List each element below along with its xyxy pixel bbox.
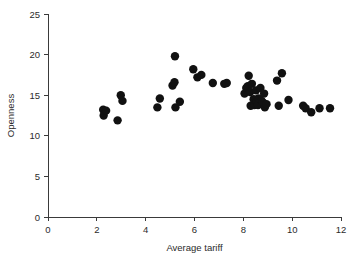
y-tick-label: 5 [35,171,40,182]
data-point [284,96,292,104]
x-tick-label: 0 [45,224,50,235]
data-point [197,71,205,79]
x-tick-label: 2 [94,224,99,235]
x-axis-ticks: 024681012 [45,217,346,235]
data-point [209,79,217,87]
y-axis-ticks: 0510152025 [29,9,48,223]
y-tick-label: 10 [29,130,40,141]
data-point [245,72,253,80]
y-axis-title: Openness [5,94,16,138]
axes-group [48,14,341,217]
data-points-layer [99,52,334,125]
data-point [102,106,110,114]
data-point [189,65,197,73]
y-tick-label: 15 [29,90,40,101]
data-point [176,97,184,105]
x-tick-label: 4 [143,224,148,235]
data-point [171,52,179,60]
data-point [170,78,178,86]
data-point [326,104,334,112]
data-point [223,79,231,87]
x-tick-label: 10 [287,224,298,235]
data-point [156,94,164,102]
x-tick-label: 8 [241,224,246,235]
scatter-plot-figure: 024681012 0510152025 Average tariff Open… [0,0,354,269]
data-point [262,100,270,108]
data-point [278,69,286,77]
data-point [273,76,281,84]
y-tick-label: 25 [29,9,40,20]
x-tick-label: 6 [192,224,197,235]
data-point [113,116,121,124]
data-point [275,102,283,110]
x-axis-title: Average tariff [166,242,223,253]
x-tick-label: 12 [336,224,347,235]
y-tick-label: 20 [29,49,40,60]
y-tick-label: 0 [35,212,40,223]
data-point [315,104,323,112]
plot-canvas: 024681012 0510152025 Average tariff Open… [0,0,354,269]
data-point [153,103,161,111]
data-point [307,108,315,116]
data-point [260,89,268,97]
data-point [118,97,126,105]
